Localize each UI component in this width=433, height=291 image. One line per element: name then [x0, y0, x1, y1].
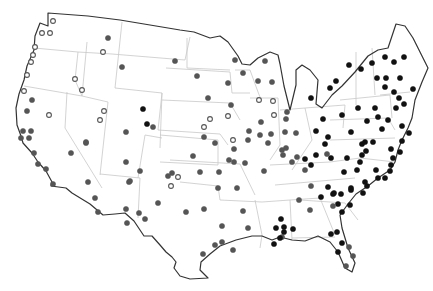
gray-marker — [190, 153, 195, 158]
open-marker — [169, 184, 174, 189]
gray-marker — [308, 183, 313, 188]
gray-marker — [330, 203, 335, 208]
gray-marker — [50, 181, 55, 186]
black-marker — [347, 202, 352, 207]
gray-marker — [246, 128, 251, 133]
black-marker — [339, 112, 344, 117]
black-marker — [327, 85, 332, 90]
open-marker — [33, 45, 38, 50]
open-marker — [226, 114, 231, 119]
black-marker — [369, 60, 374, 65]
open-marker — [48, 31, 53, 36]
gray-marker — [85, 179, 90, 184]
gray-marker — [279, 147, 284, 152]
gray-marker — [29, 97, 34, 102]
black-marker — [390, 155, 395, 160]
black-marker — [397, 75, 402, 80]
gray-marker — [92, 195, 97, 200]
gray-marker — [119, 64, 124, 69]
black-marker — [388, 162, 393, 167]
black-marker — [375, 175, 380, 180]
black-marker — [313, 128, 318, 133]
black-marker — [348, 129, 353, 134]
black-marker — [344, 155, 349, 160]
black-marker — [373, 167, 378, 172]
gray-marker — [43, 166, 48, 171]
gray-marker — [257, 132, 262, 137]
black-marker — [334, 229, 339, 234]
gray-marker — [150, 124, 155, 129]
open-marker — [31, 53, 36, 58]
black-marker — [396, 95, 401, 100]
gray-marker — [262, 58, 267, 63]
black-marker — [331, 190, 336, 195]
black-marker — [382, 84, 387, 89]
black-marker — [308, 95, 313, 100]
open-marker — [231, 138, 236, 143]
black-marker — [335, 201, 340, 206]
black-marker — [278, 216, 283, 221]
black-marker — [393, 105, 398, 110]
gray-marker — [231, 159, 236, 164]
gray-marker — [265, 140, 270, 145]
open-marker — [101, 50, 106, 55]
black-marker — [328, 231, 333, 236]
black-marker — [379, 126, 384, 131]
gray-marker — [127, 178, 132, 183]
black-marker — [355, 105, 360, 110]
gray-marker — [68, 150, 73, 155]
gray-marker — [155, 200, 160, 205]
gray-marker — [307, 207, 312, 212]
open-marker — [98, 118, 103, 123]
black-marker — [140, 106, 145, 111]
black-marker — [144, 121, 149, 126]
black-marker — [410, 86, 415, 91]
black-marker — [374, 75, 379, 80]
black-marker — [338, 191, 343, 196]
gray-marker — [215, 185, 220, 190]
black-marker — [335, 249, 340, 254]
black-marker — [302, 156, 307, 161]
gray-marker — [216, 169, 221, 174]
gray-marker — [28, 128, 33, 133]
gray-marker — [240, 208, 245, 213]
open-marker — [73, 77, 78, 82]
gray-marker — [268, 131, 273, 136]
gray-marker — [35, 161, 40, 166]
black-marker — [290, 226, 295, 231]
open-marker — [80, 88, 85, 93]
black-marker — [364, 118, 369, 123]
black-marker — [382, 175, 387, 180]
open-marker — [257, 98, 262, 103]
gray-marker — [212, 140, 217, 145]
gray-marker — [231, 146, 236, 151]
open-marker — [29, 60, 34, 65]
black-marker — [391, 89, 396, 94]
gray-marker — [255, 78, 260, 83]
black-marker — [346, 62, 351, 67]
open-marker — [208, 117, 213, 122]
gray-marker — [289, 159, 294, 164]
gray-marker — [205, 95, 210, 100]
black-marker — [362, 139, 367, 144]
open-marker — [25, 73, 30, 78]
gray-marker — [258, 119, 263, 124]
black-marker — [354, 167, 359, 172]
gray-marker — [219, 223, 224, 228]
black-marker — [359, 152, 364, 157]
gray-marker — [201, 134, 206, 139]
gray-marker — [83, 139, 88, 144]
black-marker — [363, 148, 368, 153]
black-marker — [281, 224, 286, 229]
gray-marker — [123, 159, 128, 164]
gray-marker — [165, 173, 170, 178]
black-marker — [406, 130, 411, 135]
gray-marker — [283, 116, 288, 121]
gray-marker — [228, 102, 233, 107]
gray-marker — [172, 58, 177, 63]
map-svg — [0, 0, 433, 291]
gray-marker — [194, 73, 199, 78]
gray-marker — [137, 168, 142, 173]
open-marker — [202, 125, 207, 130]
black-marker — [397, 149, 402, 154]
